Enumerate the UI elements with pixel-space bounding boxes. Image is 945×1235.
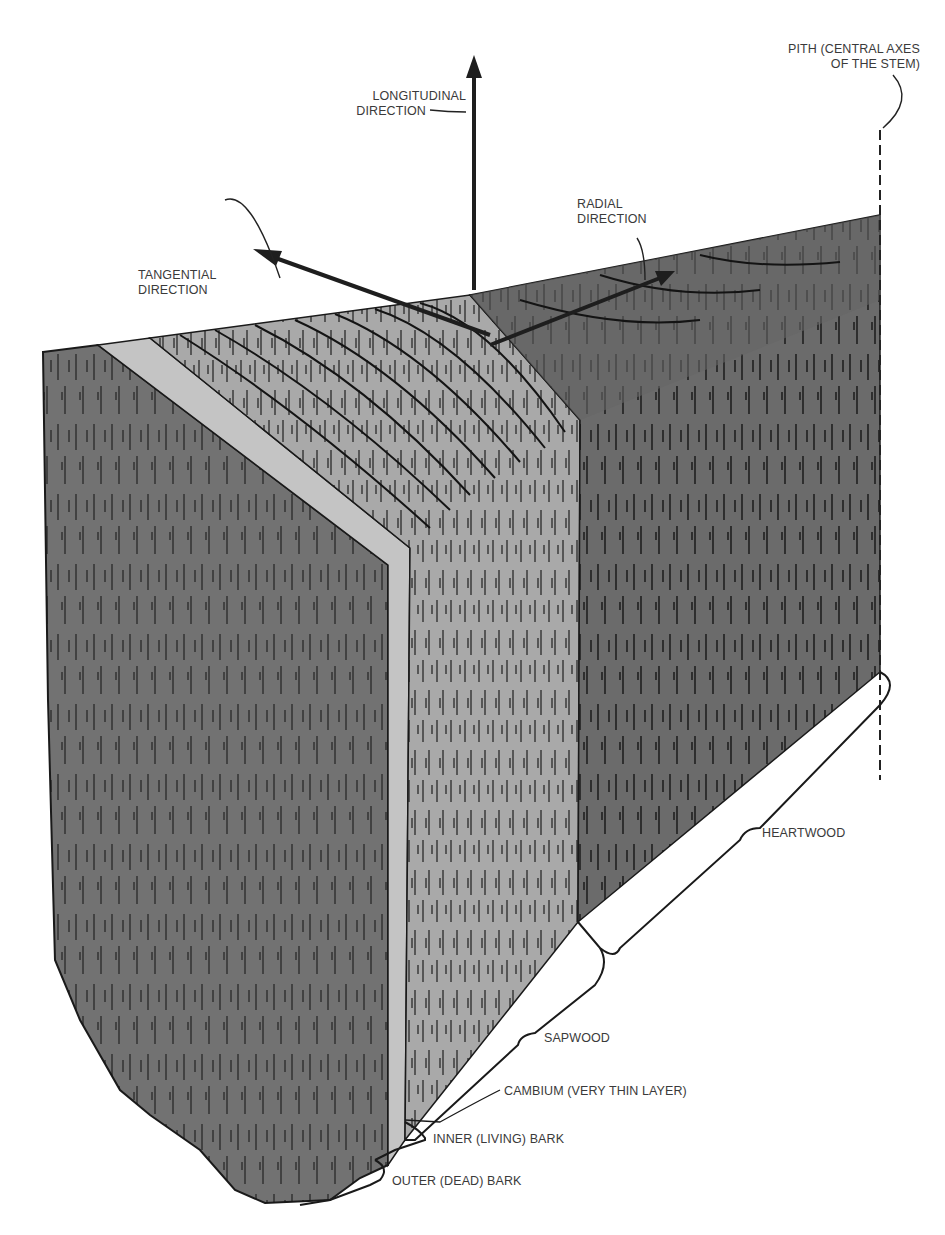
cambium-label: CAMBIUM (VERY THIN LAYER) xyxy=(504,1084,687,1099)
inner-bark-label: INNER (LIVING) BARK xyxy=(433,1132,564,1147)
pith-leader xyxy=(883,75,902,128)
sapwood-label: SAPWOOD xyxy=(544,1031,610,1046)
pith-label: PITH (CENTRAL AXES OF THE STEM) xyxy=(740,42,920,72)
radial-label: RADIAL DIRECTION xyxy=(577,197,647,227)
tangential-leader xyxy=(225,199,280,278)
pith-label-line2: OF THE STEM) xyxy=(740,57,920,72)
heartwood-label: HEARTWOOD xyxy=(762,826,845,841)
radial-label-line1: RADIAL xyxy=(577,197,647,212)
radial-label-line2: DIRECTION xyxy=(577,212,647,227)
longitudinal-label-line1: LONGITUDINAL xyxy=(296,89,466,104)
pith-label-line1: PITH (CENTRAL AXES xyxy=(740,42,920,57)
wood-block-diagram xyxy=(0,0,945,1235)
tangential-label-line2: DIRECTION xyxy=(138,283,217,298)
tangential-label: TANGENTIAL DIRECTION xyxy=(138,268,217,298)
longitudinal-arrow xyxy=(466,55,482,290)
outer-bark-label: OUTER (DEAD) BARK xyxy=(392,1174,522,1189)
longitudinal-label-line2: DIRECTION xyxy=(296,104,466,119)
longitudinal-label: LONGITUDINAL DIRECTION xyxy=(296,89,466,119)
tangential-label-line1: TANGENTIAL xyxy=(138,268,217,283)
